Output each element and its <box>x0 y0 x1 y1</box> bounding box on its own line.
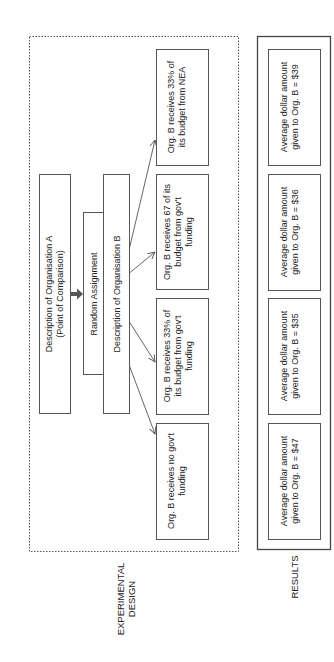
arrow-to-condition-1 <box>130 366 156 434</box>
org-b-box: Description of Organisation B <box>104 175 130 414</box>
condition-1-line2: funding <box>177 466 187 496</box>
condition-box-2: Org. B receives 33% of its budget from g… <box>157 299 209 415</box>
result-1-line2: given to Org. B = $47 <box>290 438 300 523</box>
org-b-label: Description of Organisation B <box>112 235 122 352</box>
result-box-2: Average dollar amount given to Org. B = … <box>269 299 321 415</box>
condition-4-line1: Org. B receives 33% of <box>166 60 176 153</box>
results-label: RESULTS <box>289 555 300 598</box>
result-2-line2: given to Org. B = $35 <box>290 313 300 398</box>
result-3-line1: Average dollar amount <box>279 186 289 277</box>
result-4-line1: Average dollar amount <box>279 61 289 152</box>
condition-2-line1: Org. B receives 33% of <box>162 309 172 402</box>
experimental-design-label-line2: DESIGN <box>126 581 137 618</box>
condition-box-1: Org. B receives no gov't funding <box>157 424 209 540</box>
random-assignment-box: Random Assignment <box>84 213 104 375</box>
result-box-1: Average dollar amount given to Org. B = … <box>269 424 321 540</box>
condition-2-line3: funding <box>184 341 194 371</box>
condition-box-4: Org. B receives 33% of its budget from N… <box>157 50 209 166</box>
condition-3-line3: funding <box>184 217 194 247</box>
experiment-diagram: Description of Organisation A (Point of … <box>0 0 334 662</box>
org-a-line2: (Point of Comparison) <box>55 250 65 338</box>
condition-box-3: Org. B receives 67 of its budget from go… <box>157 175 209 290</box>
condition-4-line2: its budget from NEA <box>177 67 187 148</box>
arrow-to-condition-2 <box>130 322 156 362</box>
result-3-line2: given to Org. B = $36 <box>290 189 300 274</box>
condition-3-line1: Org. B receives 67 of its <box>162 183 172 280</box>
condition-1-line1: Org. B receives no gov't <box>166 433 176 529</box>
result-2-line1: Average dollar amount <box>279 310 289 401</box>
result-1-line1: Average dollar amount <box>279 435 289 526</box>
condition-3-line2: budget from gov't <box>173 197 183 267</box>
arrow-to-condition-3 <box>130 252 156 273</box>
condition-2-line2: its budget from gov't <box>173 315 183 396</box>
arrow-to-condition-4 <box>130 140 156 248</box>
thick-arrow-icon <box>71 289 84 300</box>
result-box-3: Average dollar amount given to Org. B = … <box>269 175 321 291</box>
experimental-design-label-line1: EXPERIMENTAL <box>115 563 126 636</box>
result-box-4: Average dollar amount given to Org. B = … <box>269 50 321 166</box>
org-a-line1: Description of Organisation A <box>44 236 54 353</box>
random-assignment-label: Random Assignment <box>89 252 99 336</box>
result-4-line2: given to Org. B = $39 <box>290 64 300 149</box>
org-a-box: Description of Organisation A (Point of … <box>40 175 71 414</box>
